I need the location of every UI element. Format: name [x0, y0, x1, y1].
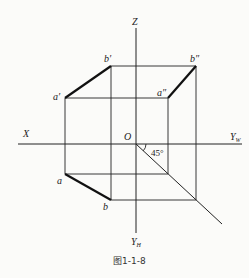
angle-arc	[143, 144, 146, 151]
point-b-top-label: b	[103, 201, 108, 212]
point-a-top-label: a	[57, 175, 62, 186]
angle-label: 45°	[151, 148, 164, 158]
point-b-front-label: b′	[104, 53, 112, 64]
point-b-side-label: b″	[190, 53, 200, 64]
yh-axis-label: YH	[131, 236, 142, 248]
x-axis-label: X	[22, 128, 30, 139]
point-a-side-label: a″	[157, 87, 167, 98]
yw-axis-label: YW	[230, 131, 242, 143]
projection-diagram: Z X O YW YH 45° b′ b″ a′ a″ a b 图1-1-8	[0, 0, 249, 278]
segment-front-view	[65, 66, 111, 98]
diagram-canvas: Z X O YW YH 45° b′ b″ a′ a″ a b 图1-1-8	[0, 0, 249, 278]
45-degree-line	[136, 144, 222, 224]
segment-side-view	[168, 66, 196, 98]
point-a-front-label: a′	[53, 91, 61, 102]
figure-caption: 图1-1-8	[113, 256, 146, 266]
z-axis-label: Z	[132, 16, 138, 27]
origin-label: O	[124, 131, 131, 142]
segment-top-view	[65, 174, 111, 200]
